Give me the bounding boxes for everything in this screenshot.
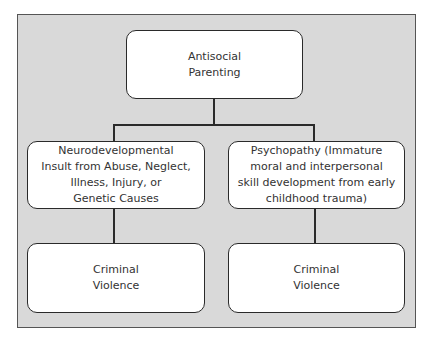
- node-label: Neurodevelopmental Insult from Abuse, Ne…: [41, 143, 191, 207]
- node-label: Psychopathy (Immature moral and interper…: [238, 143, 396, 207]
- node-label: Criminal Violence: [293, 262, 340, 294]
- node-criminal-violence-right: Criminal Violence: [228, 243, 405, 313]
- node-criminal-violence-left: Criminal Violence: [27, 243, 205, 313]
- node-label: Criminal Violence: [93, 262, 140, 294]
- node-label: Antisocial Parenting: [188, 49, 241, 81]
- connector-top-stem: [213, 97, 215, 125]
- connector-drop-right: [313, 124, 315, 141]
- connector-drop-left: [113, 124, 115, 141]
- connector-branch-bar: [113, 124, 314, 126]
- node-psychopathy: Psychopathy (Immature moral and interper…: [228, 141, 405, 209]
- diagram-canvas: Antisocial Parenting Neurodevelopmental …: [0, 0, 432, 344]
- connector-right-to-bottom: [314, 207, 316, 244]
- connector-left-to-bottom: [113, 207, 115, 244]
- node-antisocial-parenting: Antisocial Parenting: [126, 30, 303, 99]
- node-neurodevelopmental-insult: Neurodevelopmental Insult from Abuse, Ne…: [27, 141, 205, 209]
